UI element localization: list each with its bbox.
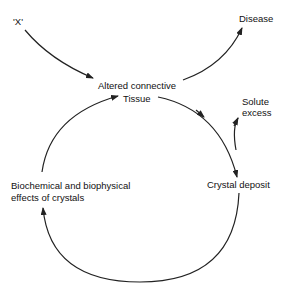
diagram-canvas: [0, 0, 286, 290]
node-altered-connective: Altered connective: [98, 80, 176, 91]
node-x: 'X': [13, 16, 23, 27]
arrow-altered-to-disease: [183, 28, 242, 80]
node-disease: Disease: [239, 13, 273, 24]
node-solute: Solute: [242, 96, 269, 107]
arrow-solute-head: [234, 118, 238, 126]
arrow-effects-to-altered: [42, 96, 118, 172]
arrow-x-to-altered: [25, 30, 93, 78]
node-crystal-deposit: Crystal deposit: [207, 179, 270, 190]
arrow-tissue-to-crystal: [158, 97, 237, 177]
node-effects-line1: Biochemical and biophysical: [11, 180, 130, 191]
node-effects-line2: effects of crystals: [11, 192, 84, 203]
node-tissue: Tissue: [123, 93, 151, 104]
arrow-crystal-to-effects: [43, 193, 239, 282]
node-excess: excess: [242, 107, 272, 118]
